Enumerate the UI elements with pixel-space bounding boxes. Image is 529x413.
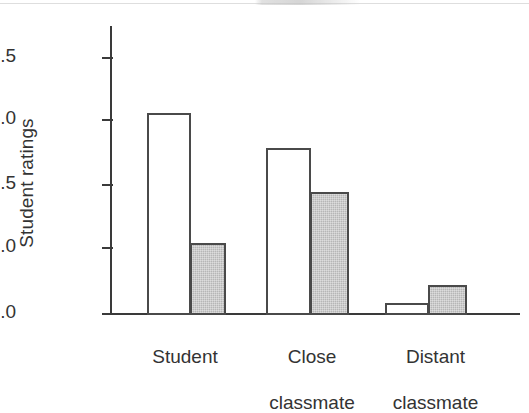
bar-student-open bbox=[147, 113, 191, 315]
y-tick-label: 3.5 bbox=[0, 172, 16, 194]
x-label-student: Student bbox=[120, 322, 250, 391]
y-tick-mark bbox=[102, 184, 113, 186]
y-tick-mark bbox=[102, 313, 113, 315]
y-tick-mark bbox=[102, 247, 113, 249]
x-label-line1: Distant bbox=[363, 345, 508, 368]
y-axis-title: Student ratings bbox=[16, 78, 38, 288]
bar-close-classmate-filled bbox=[310, 192, 349, 315]
x-label-line1: Student bbox=[120, 345, 250, 368]
bar-student-filled bbox=[190, 243, 226, 315]
x-label-line1: Close bbox=[242, 345, 382, 368]
y-axis-line bbox=[110, 26, 112, 315]
x-label-close-classmate: Close classmate bbox=[242, 322, 382, 413]
y-tick-mark bbox=[102, 57, 113, 59]
y-tick-mark bbox=[102, 119, 113, 121]
bar-close-classmate-open bbox=[266, 148, 311, 315]
y-tick-label: 3.0 bbox=[0, 235, 16, 257]
bar-distant-classmate-open bbox=[385, 303, 429, 315]
y-tick-label: 4.5 bbox=[0, 45, 16, 67]
x-label-line2: classmate bbox=[363, 391, 508, 413]
y-tick-label: 4.0 bbox=[0, 107, 16, 129]
x-label-line2: classmate bbox=[242, 391, 382, 413]
x-label-distant-classmate: Distant classmate bbox=[363, 322, 508, 413]
y-tick-label: 0.0 bbox=[0, 301, 16, 323]
bar-distant-classmate-filled bbox=[428, 285, 467, 315]
